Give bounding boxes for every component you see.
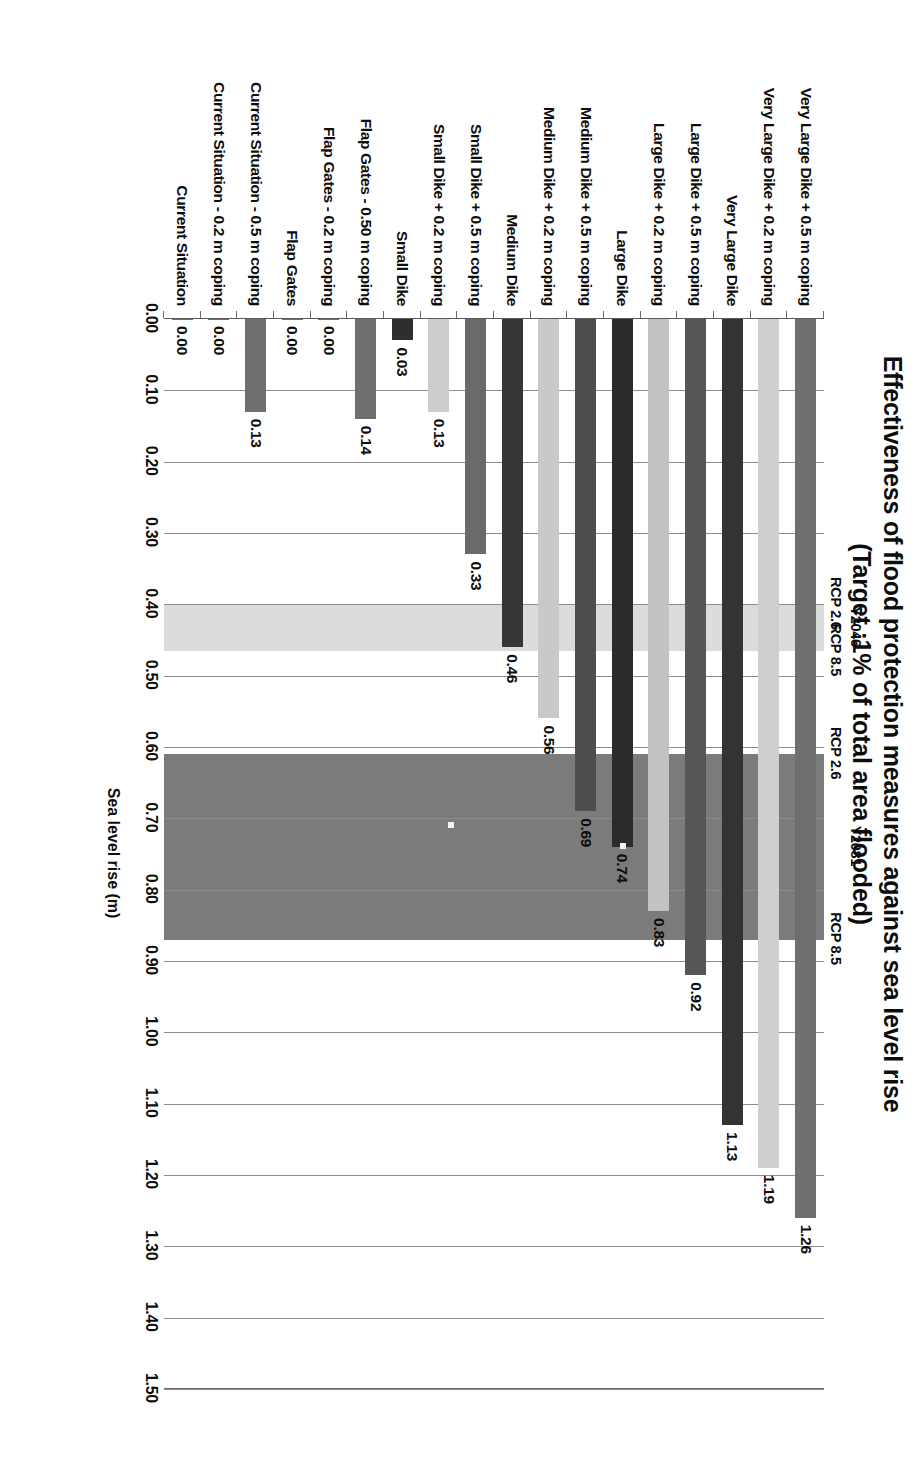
chart-subtitle: (Target :1% of total area flooded)	[847, 0, 878, 1468]
gridline-1.30	[164, 1246, 824, 1247]
bar[interactable]	[795, 319, 816, 1218]
category-label: Small Dike + 0.5 m coping	[467, 124, 485, 306]
band-y2081-lower-label: RCP 2.6	[828, 727, 844, 779]
bar[interactable]	[539, 319, 560, 718]
bar-value-label: 0.14	[357, 426, 375, 455]
chart-title: Effectiveness of flood protection measur…	[878, 0, 909, 1468]
bar-value-label: 0.13	[247, 419, 265, 448]
bar[interactable]	[172, 319, 193, 320]
category-tick	[383, 311, 384, 318]
bar[interactable]	[282, 319, 303, 320]
bar-fill	[319, 319, 340, 320]
bar-fill	[575, 319, 596, 811]
category-label: Medium Dike	[503, 214, 521, 306]
bar-value-label: 0.92	[687, 982, 705, 1011]
value-axis-title: Sea level rise (m)	[104, 318, 122, 1388]
category-label: Medium Dike + 0.5 m coping	[577, 107, 595, 306]
category-tick	[236, 311, 237, 318]
bar-fill	[465, 319, 486, 554]
value-axis-ticks: 0.000.100.200.300.400.500.600.700.800.90…	[124, 318, 164, 1388]
bar-fill	[649, 319, 670, 911]
category-tick	[713, 311, 714, 318]
bar-value-label: 0.00	[210, 326, 228, 355]
chart-title-block: Effectiveness of flood protection measur…	[847, 0, 922, 1468]
value-tick-0.40: 0.40	[142, 588, 160, 618]
bar-value-label: 0.00	[320, 326, 338, 355]
category-label: Flap Gates - 0.2 m coping	[320, 127, 338, 306]
value-tick-0.70: 0.70	[142, 802, 160, 832]
value-tick-1.50: 1.50	[142, 1373, 160, 1403]
category-label: Very Large Dike	[723, 195, 741, 306]
plot-right-border	[164, 1388, 824, 1389]
bar[interactable]	[392, 319, 413, 340]
gridline-1.40	[164, 1318, 824, 1319]
category-label: Flap Gates - 0.50 m coping	[357, 119, 375, 306]
category-tick	[530, 311, 531, 318]
gridline-1.20	[164, 1175, 824, 1176]
bar-value-label: 0.83	[650, 918, 668, 947]
category-label: Current Situation - 0.2 m coping	[210, 82, 228, 306]
category-tick	[273, 311, 274, 318]
bar[interactable]	[612, 319, 633, 847]
bar[interactable]	[759, 319, 780, 1168]
bar[interactable]	[685, 319, 706, 975]
bar-value-label: 1.13	[723, 1132, 741, 1161]
value-tick-0.80: 0.80	[142, 874, 160, 904]
value-tick-0.00: 0.00	[142, 303, 160, 333]
bar[interactable]	[575, 319, 596, 811]
category-label: Very Large Dike + 0.2 m coping	[760, 88, 778, 306]
bar[interactable]	[245, 319, 266, 412]
category-tick	[163, 311, 164, 318]
category-label: Small Dike	[393, 231, 411, 306]
value-tick-1.40: 1.40	[142, 1302, 160, 1332]
bar-fill	[392, 319, 413, 340]
category-label: Flap Gates	[283, 230, 301, 306]
band-y2081-upper-label: RCP 8.5	[828, 912, 844, 964]
category-tick	[346, 311, 347, 318]
bar[interactable]	[465, 319, 486, 554]
category-tick	[823, 311, 824, 318]
bar[interactable]	[649, 319, 670, 911]
bar-value-label: 1.19	[760, 1175, 778, 1204]
category-label: Current Situation	[173, 185, 191, 306]
bar-value-label: 0.00	[283, 326, 301, 355]
category-tick	[640, 311, 641, 318]
bar[interactable]	[319, 319, 340, 320]
bar[interactable]	[502, 319, 523, 647]
value-tick-1.30: 1.30	[142, 1230, 160, 1260]
category-tick	[676, 311, 677, 318]
bar-fill	[209, 319, 230, 320]
bar-fill	[722, 319, 743, 1125]
category-label: Large Dike + 0.2 m coping	[650, 123, 668, 306]
band-y2046-lower-label: RCP 2.6	[828, 577, 844, 629]
category-label: Current Situation - 0.5 m coping	[247, 82, 265, 306]
category-label: Large Dike + 0.5 m coping	[687, 123, 705, 306]
bar-fill	[539, 319, 560, 718]
value-tick-0.20: 0.20	[142, 446, 160, 476]
bar-fill	[172, 319, 193, 320]
bar-fill	[612, 319, 633, 847]
bar[interactable]	[355, 319, 376, 419]
category-tick	[420, 311, 421, 318]
bar-fill	[502, 319, 523, 647]
value-tick-0.10: 0.10	[142, 374, 160, 404]
category-label: Small Dike + 0.2 m coping	[430, 124, 448, 306]
bar-fill	[795, 319, 816, 1218]
bar[interactable]	[722, 319, 743, 1125]
bar-value-label: 0.13	[430, 419, 448, 448]
category-axis: Very Large Dike + 0.5 m copingVery Large…	[164, 0, 824, 318]
bar-fill	[355, 319, 376, 419]
category-tick	[200, 311, 201, 318]
bar-fill	[282, 319, 303, 320]
bar[interactable]	[209, 319, 230, 320]
gridline-1.50	[164, 1389, 824, 1390]
value-tick-1.00: 1.00	[142, 1016, 160, 1046]
bar-value-label: 1.26	[797, 1225, 815, 1254]
category-tick	[456, 311, 457, 318]
bar-fill	[245, 319, 266, 412]
scan-artifact	[620, 843, 626, 849]
value-tick-0.50: 0.50	[142, 660, 160, 690]
value-tick-1.20: 1.20	[142, 1159, 160, 1189]
bar[interactable]	[429, 319, 450, 412]
bar-value-label: 0.46	[503, 654, 521, 683]
